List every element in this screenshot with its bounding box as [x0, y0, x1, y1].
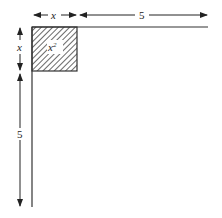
top-x-label: x	[50, 9, 56, 21]
top-5-label: 5	[139, 9, 145, 21]
left-x-label: x	[16, 41, 22, 53]
square-diagram: x2 x 5 x 5	[0, 0, 222, 218]
left-5-label: 5	[17, 128, 23, 140]
